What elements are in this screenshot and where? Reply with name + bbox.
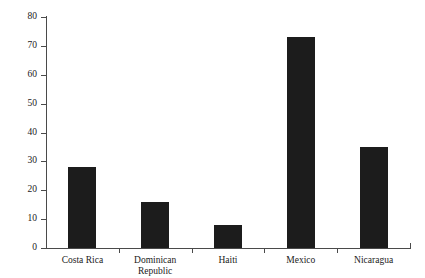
x-tick-mark	[119, 248, 120, 253]
x-tick-mark	[264, 248, 265, 253]
bar	[68, 167, 96, 248]
x-category-label: Haiti	[192, 255, 265, 266]
x-tick-mark	[192, 248, 193, 253]
bar	[360, 147, 388, 248]
x-axis-endcap	[410, 243, 411, 249]
y-tick-label: 20	[0, 185, 37, 195]
y-tick-label: 60	[0, 70, 37, 80]
x-category-label: Costa Rica	[46, 255, 119, 266]
x-tick-mark	[337, 248, 338, 253]
plot-area	[46, 17, 410, 248]
bar	[287, 37, 315, 248]
bar	[214, 225, 242, 248]
x-axis-line	[46, 248, 411, 249]
y-tick-label: 0	[0, 243, 37, 253]
y-tick-label: 50	[0, 99, 37, 109]
y-tick-label: 10	[0, 214, 37, 224]
y-tick-mark	[41, 248, 46, 249]
x-category-label: Nicaragua	[337, 255, 410, 266]
y-tick-label: 30	[0, 156, 37, 166]
x-category-label: Dominican Republic	[119, 255, 192, 277]
y-tick-label: 40	[0, 128, 37, 138]
bar-chart: Percent 01020304050607080 Costa RicaDomi…	[0, 0, 425, 278]
bar	[141, 202, 169, 248]
x-category-label: Mexico	[264, 255, 337, 266]
y-tick-label: 70	[0, 41, 37, 51]
y-tick-label: 80	[0, 12, 37, 22]
